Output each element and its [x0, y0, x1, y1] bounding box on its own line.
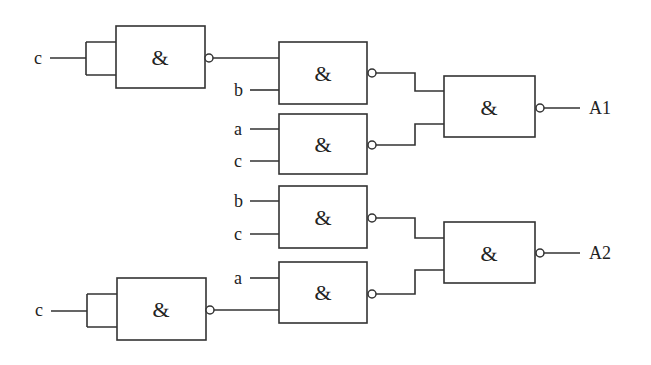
input-label-a: a	[234, 119, 242, 139]
inverter-bubble-icon	[368, 214, 376, 222]
and-symbol: &	[314, 280, 331, 305]
input-label-c: c	[35, 300, 43, 320]
and-symbol: &	[314, 61, 331, 86]
output-wire	[376, 73, 444, 91]
and-symbol: &	[480, 95, 497, 120]
input-label-b: b	[234, 80, 243, 100]
input-wire	[51, 294, 117, 327]
input-label-a: a	[234, 268, 242, 288]
and-symbol: &	[314, 205, 331, 230]
output-wire	[376, 124, 444, 145]
inverter-bubble-icon	[368, 69, 376, 77]
and-symbol: &	[152, 297, 169, 322]
nand-gate-g3: a c &	[234, 114, 444, 174]
nand-gate-a2: & A2	[444, 222, 611, 283]
and-symbol: &	[314, 132, 331, 157]
inverter-bubble-icon	[205, 54, 213, 62]
and-symbol: &	[480, 241, 497, 266]
inverter-bubble-icon	[536, 249, 544, 257]
input-label-b: b	[234, 191, 243, 211]
input-label-c: c	[234, 224, 242, 244]
output-wire	[376, 218, 444, 238]
output-wire	[376, 270, 444, 294]
input-label-c: c	[34, 48, 42, 68]
input-wire	[250, 201, 279, 234]
logic-circuit-diagram: c & b & a c & & A1 b c &	[0, 0, 651, 365]
inverter-bubble-icon	[368, 290, 376, 298]
nand-gate-g7: c &	[35, 278, 279, 340]
nand-gate-g6: a &	[234, 262, 444, 323]
nand-gate-g2: b &	[234, 42, 444, 104]
nand-gate-g5: b c &	[234, 186, 444, 248]
input-label-c: c	[234, 151, 242, 171]
inverter-bubble-icon	[368, 141, 376, 149]
output-label-a1: A1	[589, 98, 611, 118]
inverter-bubble-icon	[206, 306, 214, 314]
and-symbol: &	[151, 45, 168, 70]
input-wire	[50, 42, 116, 75]
nand-gate-a1: & A1	[444, 76, 611, 137]
inverter-bubble-icon	[536, 104, 544, 112]
input-wire	[250, 129, 279, 161]
nand-gate-g1: c &	[34, 26, 279, 88]
output-label-a2: A2	[589, 243, 611, 263]
